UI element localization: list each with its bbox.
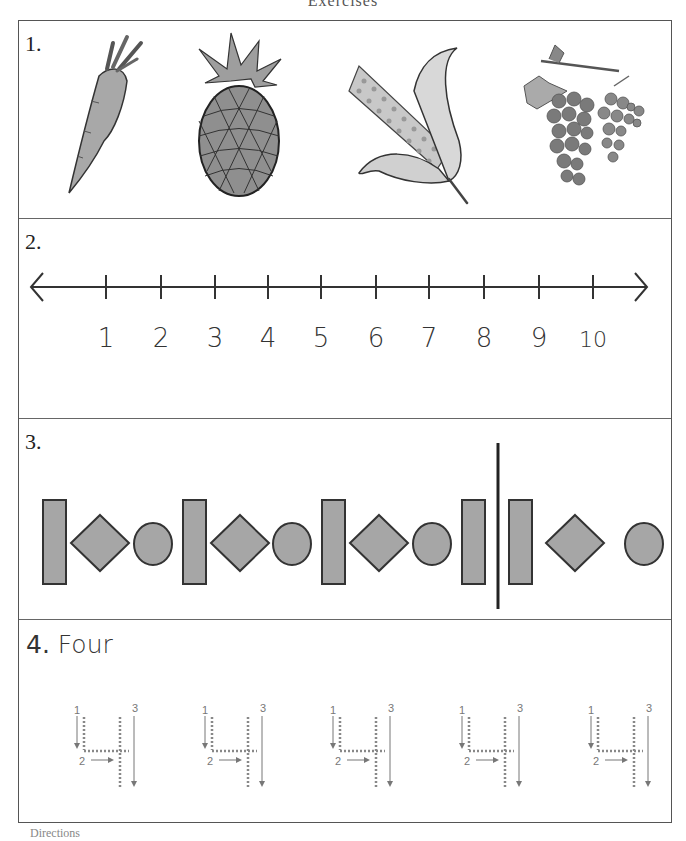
svg-text:1: 1 — [330, 704, 336, 716]
rectangle-shape — [462, 500, 485, 584]
svg-text:2: 2 — [593, 755, 599, 767]
tick-label: 3 — [207, 323, 224, 353]
svg-text:3: 3 — [132, 702, 138, 714]
tick-label: 7 — [421, 323, 438, 353]
circle-shape — [413, 523, 451, 565]
question-2-panel: 2. 1 2 3 4 5 6 7 8 9 10 — [19, 218, 671, 418]
svg-text:1: 1 — [459, 704, 465, 716]
svg-text:2: 2 — [464, 755, 470, 767]
tracing-row: 1 2 3 1 2 3 1 2 3 1 — [19, 620, 673, 823]
grapes-icon — [524, 45, 644, 185]
rectangle-shape — [509, 500, 532, 584]
svg-text:2: 2 — [79, 755, 85, 767]
tick-label: 8 — [476, 323, 493, 353]
diamond-shape — [71, 515, 129, 571]
svg-text:3: 3 — [260, 702, 266, 714]
question-1-panel: 1. — [19, 21, 671, 218]
tracing-four: 1 2 3 — [330, 702, 394, 788]
page-header-title: Exercises — [0, 0, 686, 10]
svg-text:1: 1 — [588, 704, 594, 716]
shape-pattern — [19, 419, 673, 620]
tick-label: 2 — [153, 323, 170, 353]
tracing-four: 1 2 3 — [588, 702, 652, 788]
circle-shape — [625, 523, 663, 565]
svg-text:3: 3 — [388, 702, 394, 714]
svg-text:2: 2 — [207, 755, 213, 767]
tracing-four: 1 2 3 — [74, 702, 138, 788]
diamond-shape — [350, 515, 408, 571]
circle-shape — [134, 523, 172, 565]
diamond-shape — [211, 515, 269, 571]
rectangle-shape — [322, 500, 345, 584]
tracing-four: 1 2 3 — [459, 702, 523, 788]
rectangle-shape — [43, 500, 66, 584]
worksheet: 1. — [18, 20, 672, 823]
tick-label: 1 — [98, 323, 115, 353]
tick-label: 6 — [368, 323, 385, 353]
question-4-panel: 4.Four 1 2 — [19, 619, 671, 822]
svg-text:1: 1 — [74, 704, 80, 716]
tick-label: 4 — [260, 323, 277, 353]
tracing-four: 1 2 3 — [202, 702, 266, 788]
circle-shape — [273, 523, 311, 565]
tick-label: 9 — [531, 323, 548, 353]
pineapple-icon — [199, 33, 281, 196]
footer-text: Directions — [30, 826, 80, 841]
tick-label: 10 — [579, 327, 607, 352]
rectangle-shape — [183, 500, 206, 584]
svg-text:3: 3 — [517, 702, 523, 714]
picture-row — [19, 21, 673, 218]
tick-label: 5 — [313, 323, 330, 353]
svg-text:2: 2 — [335, 755, 341, 767]
question-3-panel: 3. — [19, 418, 671, 619]
number-line: 1 2 3 4 5 6 7 8 9 10 — [19, 219, 673, 419]
carrot-icon — [69, 37, 141, 193]
diamond-shape — [546, 515, 604, 571]
corn-icon — [349, 48, 467, 203]
svg-text:1: 1 — [202, 704, 208, 716]
svg-text:3: 3 — [646, 702, 652, 714]
